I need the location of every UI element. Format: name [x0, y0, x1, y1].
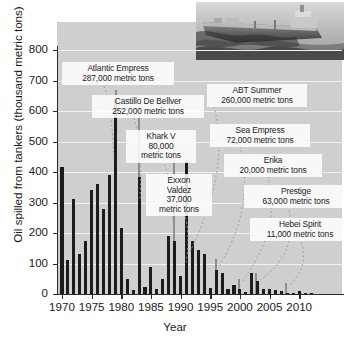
ytick-label-100: 100	[0, 258, 48, 270]
ytick-label-400: 400	[0, 166, 48, 178]
callout-sea-empress: Sea Empress 72,000 metric tons	[210, 124, 310, 147]
xtick-mark-1970	[62, 295, 63, 299]
ytick-label-500: 500	[0, 136, 48, 148]
callout-khark-v: Khark V 80,000 metric tons	[126, 130, 196, 163]
bar-1978	[108, 175, 111, 294]
bar-1993	[197, 250, 200, 294]
xtick-mark-1980	[121, 295, 122, 299]
bar-1994	[203, 254, 206, 294]
callout-atlantic-empress: Atlantic Empress 287,000 metric tons	[62, 62, 174, 85]
chart-figure: 0100200300400500600700800 19701975198019…	[0, 0, 350, 343]
xtick-mark-1995	[210, 295, 211, 299]
tanker-illustration	[196, 2, 344, 60]
xtick-mark-1990	[181, 295, 182, 299]
bar-1971	[66, 260, 69, 294]
oil-tanker-photo	[196, 2, 344, 60]
xtick-mark-2005	[270, 295, 271, 299]
bar-1975	[90, 190, 93, 294]
ytick-label-700: 700	[0, 75, 48, 87]
ytick-label-300: 300	[0, 197, 48, 209]
bar-1974	[84, 241, 87, 294]
bar-1972	[72, 199, 75, 294]
bar-1980	[120, 228, 123, 294]
x-axis-title: Year	[0, 320, 350, 333]
callout-castillo-de-bellver: Castillo De Bellver 252,000 metric tons	[92, 95, 204, 118]
bar-1977	[102, 209, 105, 294]
xtick-mark-2000	[240, 295, 241, 299]
bar-1970	[60, 167, 63, 294]
bar-2003	[256, 281, 259, 294]
ytick-label-800: 800	[0, 44, 48, 56]
xtick-label-2010: 2010	[279, 300, 319, 313]
x-axis-line	[57, 294, 344, 295]
callout-prestige: Prestige 63,000 metric tons	[244, 185, 348, 208]
bar-1990	[179, 276, 182, 294]
callout-erika: Erika 20,000 metric tons	[224, 154, 322, 177]
bar-1984	[143, 287, 146, 294]
bar-1992	[191, 241, 194, 294]
bar-1983	[138, 177, 141, 294]
bar-1973	[78, 254, 81, 294]
bar-1997	[221, 273, 224, 294]
callout-abt-summer: ABT Summer 260,000 metric tons	[207, 84, 307, 107]
callout-hebei-spirit: Hebei Spirit 11,000 metric tons	[250, 218, 350, 241]
xtick-mark-1975	[92, 295, 93, 299]
bar-1985	[149, 267, 152, 294]
bar-1989	[173, 241, 176, 294]
y-axis-line	[57, 46, 58, 295]
bar-1996	[215, 270, 218, 294]
bar-1976	[96, 184, 99, 294]
ytick-label-600: 600	[0, 105, 48, 117]
bar-1987	[161, 279, 164, 294]
y-axis-title: Oil spilled from tankers (thousand metri…	[11, 0, 24, 254]
bar-1999	[232, 285, 235, 294]
bar-2002	[250, 273, 253, 294]
xtick-mark-1985	[151, 295, 152, 299]
bar-1988	[167, 236, 170, 294]
xtick-mark-2010	[299, 295, 300, 299]
ytick-label-0: 0	[0, 288, 48, 300]
callout-exxon-valdez: Exxon Valdez 37,000 metric tons	[146, 174, 212, 216]
bar-1979	[114, 99, 117, 294]
bar-1981	[126, 279, 129, 294]
ytick-label-200: 200	[0, 227, 48, 239]
gridline-800	[57, 50, 342, 51]
